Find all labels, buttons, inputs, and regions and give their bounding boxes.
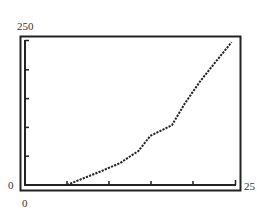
- screen-frame: [21, 37, 241, 191]
- y-max-label: 250: [17, 21, 34, 32]
- x-min-label: 0: [22, 198, 28, 209]
- data-curve: [67, 42, 232, 185]
- x-max-label: 25: [244, 181, 255, 192]
- y-min-label: 0: [8, 180, 14, 191]
- plot-area: [0, 0, 257, 217]
